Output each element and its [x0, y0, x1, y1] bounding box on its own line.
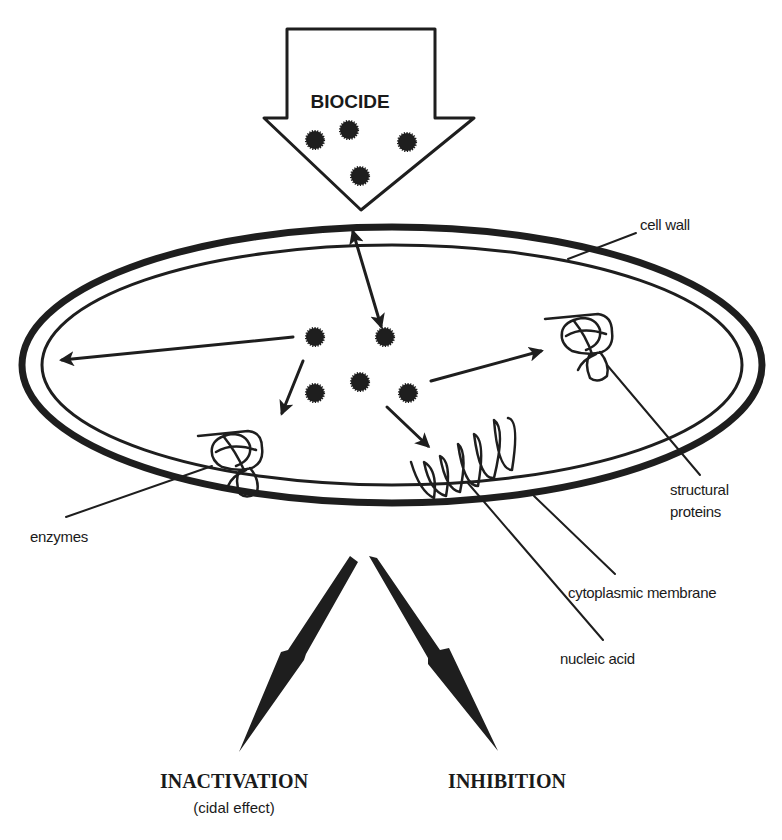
inhibition-arrow-icon [369, 556, 498, 751]
biocide-arrow: BIOCIDE [264, 29, 474, 210]
cell-particles [306, 328, 417, 402]
biocide-particle-icon [399, 384, 417, 402]
enzymes-label: enzymes [30, 528, 88, 545]
biocide-particle-icon [351, 373, 369, 391]
cell-wall-label: cell wall [640, 216, 690, 233]
inactivation-label: INACTIVATION [160, 770, 309, 792]
biocide-particle-icon [376, 328, 394, 346]
biocide-particle-icon [306, 384, 324, 402]
biocide-label: BIOCIDE [310, 91, 389, 112]
outcome-arrows [239, 556, 498, 752]
structural-proteins-label-2: proteins [670, 503, 721, 520]
biocide-particle-icon [306, 131, 324, 149]
biocide-particle-icon [306, 328, 324, 346]
biocide-particle-icon [351, 167, 369, 185]
structural-proteins-label-1: structural [670, 481, 729, 498]
structural-proteins-leader [607, 365, 700, 475]
biocide-particle-icon [398, 133, 416, 151]
cytoplasmic-membrane-label: cytoplasmic membrane [568, 584, 716, 601]
enzymes-leader [66, 466, 212, 517]
nucleic-acid-leader [467, 482, 603, 640]
biocide-particle-icon [340, 121, 358, 139]
inactivation-arrow-icon [239, 556, 358, 752]
arrow-to-enzymes [282, 361, 303, 413]
inactivation-sublabel: (cidal effect) [193, 799, 274, 816]
nucleic-acid-label: nucleic acid [560, 650, 635, 667]
cytoplasmic-membrane [42, 245, 742, 485]
structural-proteins-tangle-icon [545, 314, 612, 381]
nucleic-acid-helix-icon [411, 418, 515, 498]
biocide-diagram: BIOCIDE cell wall [0, 0, 782, 840]
cell-wall [22, 227, 762, 503]
inhibition-label: INHIBITION [448, 770, 566, 792]
arrow-to-nucleic-acid [387, 407, 428, 446]
arrow-to-structural-proteins [431, 351, 541, 381]
arrow-to-membrane [62, 337, 293, 360]
cytoplasmic-membrane-leader [534, 496, 615, 574]
